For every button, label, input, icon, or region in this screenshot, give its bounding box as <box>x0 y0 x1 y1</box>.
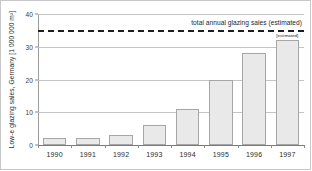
gridline-y-40 <box>38 14 304 15</box>
y-tick-label-0: 0 <box>29 142 33 149</box>
y-tick-mark-10 <box>35 112 38 113</box>
x-tick-mark-7 <box>271 145 272 148</box>
reference-line-total-glazing-sales <box>38 30 304 32</box>
x-tick-mark-3 <box>138 145 139 148</box>
x-tick-mark-5 <box>204 145 205 148</box>
x-tick-label-1990: 1990 <box>46 151 62 158</box>
bar-1990 <box>43 138 66 145</box>
y-tick-mark-20 <box>35 79 38 80</box>
y-tick-label-30: 30 <box>26 43 33 50</box>
plot-area: 0102030401990199119921993199419951996199… <box>38 14 304 145</box>
chart-figure: Low-e glazing sales, Germany [1 000 000 … <box>0 0 312 171</box>
x-tick-mark-2 <box>105 145 106 148</box>
x-tick-label-1991: 1991 <box>80 151 96 158</box>
x-tick-label-1993: 1993 <box>146 151 162 158</box>
x-tick-mark-end <box>304 145 305 148</box>
y-tick-label-10: 10 <box>26 109 33 116</box>
x-tick-mark-0 <box>38 145 39 148</box>
bar-1997 <box>276 40 299 145</box>
x-tick-label-1995: 1995 <box>213 151 229 158</box>
x-tick-label-1994: 1994 <box>179 151 195 158</box>
y-axis-label-text: Low-e glazing sales, Germany [1 000 000 … <box>8 11 15 148</box>
x-tick-label-1997: 1997 <box>279 151 295 158</box>
bar-1995 <box>209 80 232 146</box>
gridline-y-30 <box>38 47 304 48</box>
x-tick-label-1992: 1992 <box>113 151 129 158</box>
y-tick-mark-30 <box>35 46 38 47</box>
reference-line-label: total annual glazing sales (estimated) <box>191 19 302 26</box>
bar-1994 <box>176 109 199 145</box>
y-axis-label: Low-e glazing sales, Germany [1 000 000 … <box>6 14 17 145</box>
x-tick-mark-6 <box>238 145 239 148</box>
x-tick-mark-1 <box>71 145 72 148</box>
bar-1992 <box>109 135 132 145</box>
bar-annotation-1997: [estimated] <box>276 33 299 38</box>
y-tick-mark-40 <box>35 14 38 15</box>
y-tick-label-20: 20 <box>26 76 33 83</box>
x-tick-mark-4 <box>171 145 172 148</box>
x-tick-label-1996: 1996 <box>246 151 262 158</box>
bar-1993 <box>143 125 166 145</box>
bar-1996 <box>242 53 265 145</box>
bar-1991 <box>76 138 99 145</box>
y-tick-label-40: 40 <box>26 11 33 18</box>
